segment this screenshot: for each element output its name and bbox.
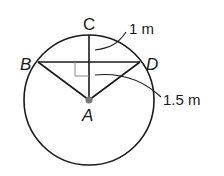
label-b: B (20, 55, 31, 74)
label-a: A (81, 106, 93, 125)
right-angle-marker (75, 62, 89, 76)
measurement-1-5m: 1.5 m (163, 91, 201, 108)
measurement-1m: 1 m (129, 20, 154, 37)
segment-ab (38, 62, 89, 100)
segment-ad (89, 62, 140, 100)
label-c: C (83, 15, 95, 34)
leader-1m (95, 32, 126, 50)
leader-1-5m (95, 74, 161, 97)
circle-diagram: C B D A 1 m 1.5 m (0, 0, 224, 176)
label-d: D (146, 55, 158, 74)
center-dot (86, 97, 93, 104)
